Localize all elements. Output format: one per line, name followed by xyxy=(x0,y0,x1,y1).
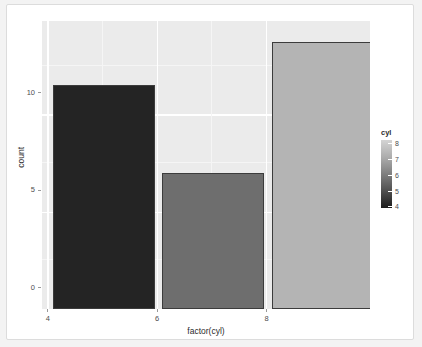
y-tick-mark-0 xyxy=(38,287,41,288)
x-tick-mark-4 xyxy=(47,309,48,312)
x-tick-mark-6 xyxy=(157,309,158,312)
legend-tick-label-8: 8 xyxy=(395,140,399,147)
legend-tick-mark-6 xyxy=(388,175,392,176)
plot-panel xyxy=(42,21,370,309)
bar-cyl-4[interactable] xyxy=(53,85,155,309)
legend-tick-label-7: 7 xyxy=(395,156,399,163)
legend-title: cyl xyxy=(381,129,391,137)
ggplot-figure: 10 5 0 count 4 6 8 factor(cyl) cyl 8 xyxy=(7,5,415,341)
bar-cyl-6[interactable] xyxy=(162,173,264,309)
y-tick-mark-10 xyxy=(38,92,41,93)
gridline-major-v-8 xyxy=(266,21,267,309)
y-tick-label-0: 0 xyxy=(9,284,35,292)
legend-tick-mark-4 xyxy=(388,206,392,207)
legend-tick-mark-8 xyxy=(388,143,392,144)
x-tick-mark-8 xyxy=(266,309,267,312)
legend-tick-label-5: 5 xyxy=(395,188,399,195)
x-tick-label-4: 4 xyxy=(46,315,50,323)
gridline-major-v-6 xyxy=(157,21,158,309)
y-axis-title: count xyxy=(17,117,26,197)
plot-card: 10 5 0 count 4 6 8 factor(cyl) cyl 8 xyxy=(6,4,414,340)
y-tick-mark-5 xyxy=(38,190,41,191)
legend-tick-mark-5 xyxy=(388,191,392,192)
legend-tick-mark-7 xyxy=(388,159,392,160)
x-axis-title: factor(cyl) xyxy=(42,327,370,336)
bar-cyl-8[interactable] xyxy=(272,42,370,309)
y-tick-label-10: 10 xyxy=(9,89,35,97)
legend: cyl 8 7 6 5 4 xyxy=(381,129,413,213)
x-tick-label-6: 6 xyxy=(155,315,159,323)
x-tick-label-8: 8 xyxy=(264,315,268,323)
gridline-major-v-4 xyxy=(47,21,48,309)
chart-screenshot: 10 5 0 count 4 6 8 factor(cyl) cyl 8 xyxy=(0,0,422,347)
legend-tick-label-4: 4 xyxy=(395,203,399,210)
legend-tick-label-6: 6 xyxy=(395,172,399,179)
